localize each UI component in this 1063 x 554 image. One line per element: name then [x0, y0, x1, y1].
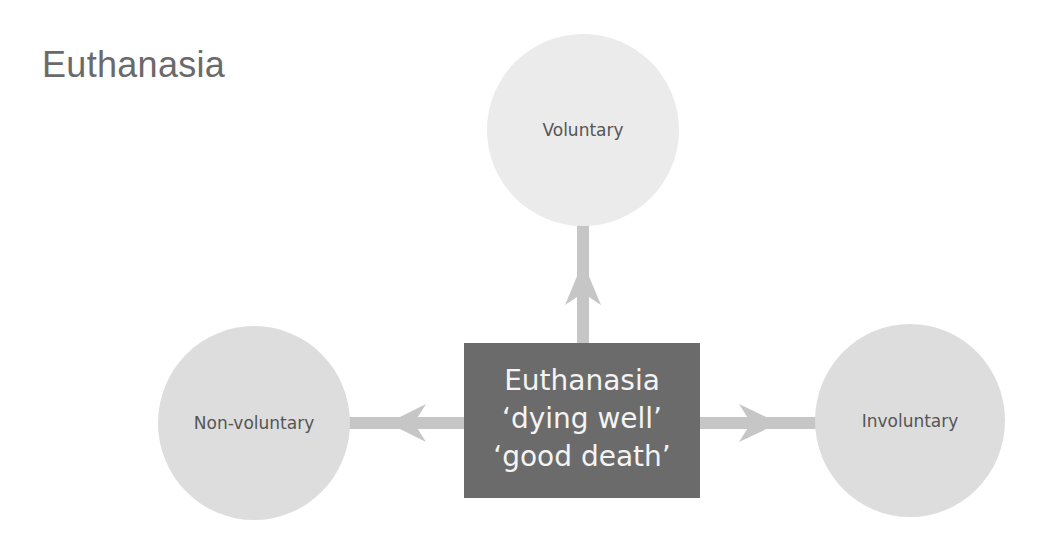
- arrow-left-to-non-voluntary: [344, 404, 465, 442]
- node-voluntary: Voluntary: [487, 34, 679, 226]
- arrow-right-to-involuntary: [699, 404, 817, 442]
- node-involuntary-label: Involuntary: [862, 411, 959, 431]
- center-line-1: Euthanasia: [504, 362, 660, 400]
- node-involuntary: Involuntary: [815, 324, 1005, 517]
- node-non-voluntary-label: Non-voluntary: [194, 413, 314, 433]
- node-voluntary-label: Voluntary: [542, 120, 623, 140]
- arrow-up-to-voluntary: [565, 224, 601, 344]
- center-line-3: ‘good death’: [493, 438, 670, 476]
- center-box-euthanasia: Euthanasia ‘dying well’ ‘good death’: [464, 343, 700, 498]
- center-line-2: ‘dying well’: [502, 400, 662, 438]
- node-non-voluntary: Non-voluntary: [158, 326, 350, 520]
